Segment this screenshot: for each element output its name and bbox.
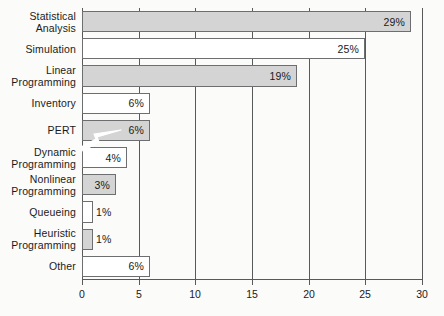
category-label-heuristic-programming: HeuristicProgramming — [0, 227, 76, 251]
bar-value-label: 4% — [105, 152, 121, 164]
bar-chart-screenshot: StatisticalAnalysisSimulationLinearProgr… — [0, 0, 444, 316]
bar-row: 4% — [82, 144, 423, 171]
category-label-line: Linear — [0, 64, 76, 76]
category-label-linear-programming: LinearProgramming — [0, 64, 76, 88]
bar-row: 25% — [82, 35, 423, 62]
bar-queueing[interactable] — [82, 201, 93, 222]
category-label-pert: PERT — [0, 124, 76, 136]
bar-value-label: 29% — [383, 16, 405, 28]
category-label-statistical-analysis: StatisticalAnalysis — [0, 10, 76, 34]
category-label-line: Nonlinear — [0, 173, 76, 185]
category-label-line: Programming — [0, 158, 76, 170]
x-tick-label-30: 30 — [416, 288, 428, 300]
bar-value-label: 3% — [94, 179, 110, 191]
x-tick-label-5: 5 — [136, 288, 142, 300]
x-tick-label-10: 10 — [189, 288, 201, 300]
category-label-inventory: Inventory — [0, 97, 76, 109]
bar-row: 6% — [82, 117, 423, 144]
bar-value-label: 6% — [128, 124, 144, 136]
category-label-line: Inventory — [0, 97, 76, 109]
category-label-dynamic-programming: DynamicProgramming — [0, 146, 76, 170]
tick-mark-30 — [422, 280, 423, 285]
bar-heuristic-programming[interactable] — [82, 229, 93, 250]
plot-area: 29%25%19%6%6%4%3%1%1%6% — [82, 8, 423, 280]
bar-value-label: 6% — [128, 97, 144, 109]
bar-value-label: 1% — [96, 233, 112, 245]
category-label-nonlinear-programming: NonlinearProgramming — [0, 173, 76, 197]
tick-mark-5 — [139, 280, 140, 285]
x-tick-label-15: 15 — [246, 288, 258, 300]
tick-mark-15 — [252, 280, 253, 285]
category-label-line: Programming — [0, 185, 76, 197]
bar-row: 3% — [82, 171, 423, 198]
bar-row: 1% — [82, 198, 423, 225]
category-label-line: Programming — [0, 239, 76, 251]
tick-mark-10 — [195, 280, 196, 285]
category-label-queueing: Queueing — [0, 206, 76, 218]
bar-row: 6% — [82, 90, 423, 117]
tick-mark-25 — [365, 280, 366, 285]
bar-statistical-analysis[interactable] — [82, 11, 411, 32]
bar-value-label: 6% — [128, 260, 144, 272]
category-label-line: Dynamic — [0, 146, 76, 158]
bar-value-label: 19% — [269, 70, 291, 82]
category-label-line: Programming — [0, 76, 76, 88]
bar-row: 19% — [82, 62, 423, 89]
bar-simulation[interactable] — [82, 38, 365, 59]
x-tick-label-0: 0 — [79, 288, 85, 300]
bar-row: 6% — [82, 253, 423, 280]
category-label-line: Heuristic — [0, 227, 76, 239]
tick-mark-20 — [309, 280, 310, 285]
category-label-line: Analysis — [0, 22, 76, 34]
tick-mark-0 — [82, 280, 83, 285]
bar-row: 1% — [82, 226, 423, 253]
x-tick-label-25: 25 — [359, 288, 371, 300]
category-label-simulation: Simulation — [0, 43, 76, 55]
category-label-line: PERT — [0, 124, 76, 136]
category-label-line: Statistical — [0, 10, 76, 22]
x-tick-label-20: 20 — [303, 288, 315, 300]
bar-value-label: 1% — [96, 206, 112, 218]
category-label-line: Other — [0, 260, 76, 272]
bar-linear-programming[interactable] — [82, 65, 297, 86]
category-label-line: Simulation — [0, 43, 76, 55]
category-label-line: Queueing — [0, 206, 76, 218]
category-label-other: Other — [0, 260, 76, 272]
bar-row: 29% — [82, 8, 423, 35]
bar-value-label: 25% — [337, 43, 359, 55]
